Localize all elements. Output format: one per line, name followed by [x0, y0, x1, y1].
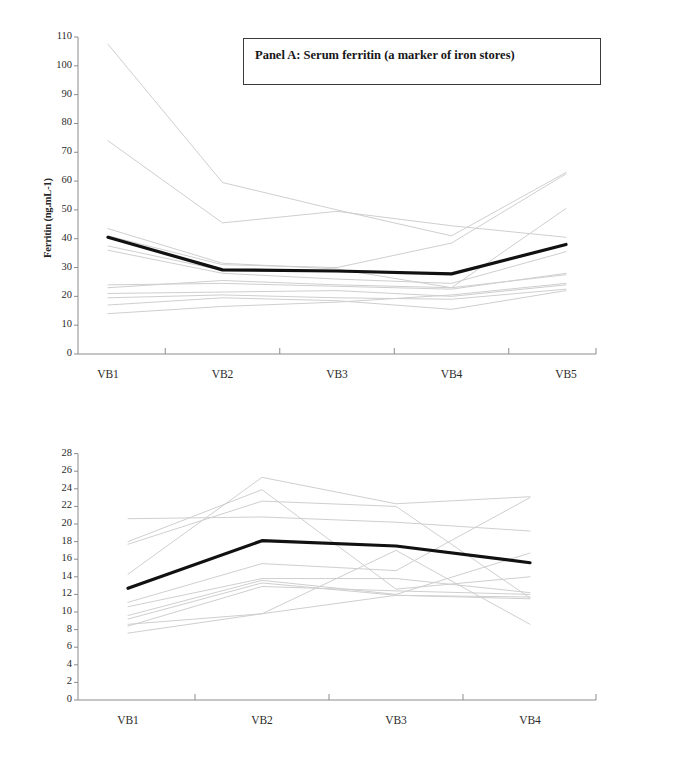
individual-subject-line: [108, 174, 566, 268]
y-tick-label: 50: [36, 203, 72, 214]
y-tick-label: 60: [36, 174, 72, 185]
panel-b-chart: Erythropoietin (ng.L-1) Panel B: Erythro…: [0, 390, 680, 765]
y-tick-label: 22: [36, 499, 72, 510]
y-tick-label: 16: [36, 552, 72, 563]
x-tick-label: VB2: [232, 714, 292, 726]
y-tick-label: 8: [36, 623, 72, 634]
individual-subject-line: [128, 490, 530, 589]
mean-line: [128, 541, 530, 589]
individual-subject-line: [128, 553, 530, 615]
x-tick-label: VB4: [422, 368, 482, 380]
individual-subject-line: [108, 291, 566, 310]
x-tick-label: VB1: [98, 714, 158, 726]
individual-subject-line: [128, 586, 530, 626]
individual-subject-line: [108, 275, 566, 288]
y-tick-label: 6: [36, 640, 72, 651]
y-tick-label: 110: [36, 30, 72, 41]
panel-a-y-axis-title: Ferritin (ng.mL-1): [42, 178, 53, 258]
individual-subject-line: [108, 283, 566, 313]
individual-subject-line: [128, 477, 530, 574]
y-tick-label: 4: [36, 658, 72, 669]
y-tick-label: 90: [36, 88, 72, 99]
individual-subject-line: [128, 501, 530, 598]
y-tick-label: 0: [36, 347, 72, 358]
y-tick-label: 70: [36, 145, 72, 156]
y-tick-label: 30: [36, 261, 72, 272]
x-tick-label: VB3: [307, 368, 367, 380]
y-tick-label: 0: [36, 693, 72, 704]
individual-subject-line: [128, 550, 530, 633]
x-tick-label: VB5: [536, 368, 596, 380]
x-tick-label: VB4: [500, 714, 560, 726]
x-tick-label: VB3: [366, 714, 426, 726]
y-tick-label: 18: [36, 535, 72, 546]
y-tick-label: 12: [36, 587, 72, 598]
y-tick-label: 40: [36, 232, 72, 243]
y-tick-label: 26: [36, 464, 72, 475]
individual-subject-line: [108, 273, 566, 289]
individual-subject-line: [108, 208, 566, 287]
individual-subject-line: [108, 141, 566, 238]
y-tick-label: 14: [36, 570, 72, 581]
x-tick-label: VB1: [78, 368, 138, 380]
panel-a-chart: Ferritin (ng.mL-1) Panel A: Serum ferrit…: [0, 0, 680, 390]
y-tick-label: 24: [36, 482, 72, 493]
y-tick-label: 100: [36, 59, 72, 70]
y-tick-label: 80: [36, 116, 72, 127]
y-tick-label: 20: [36, 289, 72, 300]
y-tick-label: 28: [36, 447, 72, 458]
panel-b-plot-area: [0, 390, 680, 765]
y-tick-label: 10: [36, 605, 72, 616]
y-tick-label: 2: [36, 675, 72, 686]
x-tick-label: VB2: [193, 368, 253, 380]
y-tick-label: 20: [36, 517, 72, 528]
panel-a-caption-box: Panel A: Serum ferritin (a marker of iro…: [243, 38, 601, 85]
y-tick-label: 10: [36, 318, 72, 329]
individual-subject-line: [128, 517, 530, 531]
